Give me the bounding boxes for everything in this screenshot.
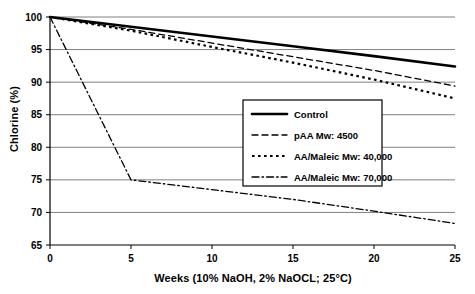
y-tick-label: 70	[31, 207, 43, 218]
y-tick-label: 75	[31, 174, 43, 185]
y-tick-label: 95	[31, 44, 43, 55]
series-line-0	[50, 17, 455, 67]
x-tick-label: 0	[47, 253, 53, 264]
legend-label-3: AA/Maleic Mw: 70,000	[294, 172, 392, 183]
y-tick-label: 65	[31, 240, 43, 251]
x-tick-label: 20	[368, 253, 380, 264]
chart-plot-area: 65707580859095100 0510152025 ControlpAA …	[0, 0, 475, 294]
chart-legend: ControlpAA Mw: 4500AA/Maleic Mw: 40,000A…	[243, 100, 392, 186]
x-tick-label: 15	[287, 253, 299, 264]
x-tick-label: 10	[206, 253, 218, 264]
y-tick-group: 65707580859095100	[25, 12, 50, 251]
chart-container: 65707580859095100 0510152025 ControlpAA …	[0, 0, 475, 294]
y-axis-label: Chlorine (%)	[8, 59, 20, 179]
legend-label-0: Control	[294, 109, 328, 120]
x-axis-label: Weeks (10% NaOH, 2% NaOCL; 25°C)	[50, 272, 456, 284]
x-tick-label: 25	[449, 253, 461, 264]
legend-label-2: AA/Maleic Mw: 40,000	[294, 151, 392, 162]
y-tick-label: 85	[31, 109, 43, 120]
x-tick-group: 0510152025	[47, 245, 461, 264]
y-tick-label: 90	[31, 77, 43, 88]
x-tick-label: 5	[128, 253, 134, 264]
y-tick-label: 80	[31, 142, 43, 153]
legend-label-1: pAA Mw: 4500	[294, 130, 358, 141]
y-tick-label: 100	[25, 12, 42, 23]
